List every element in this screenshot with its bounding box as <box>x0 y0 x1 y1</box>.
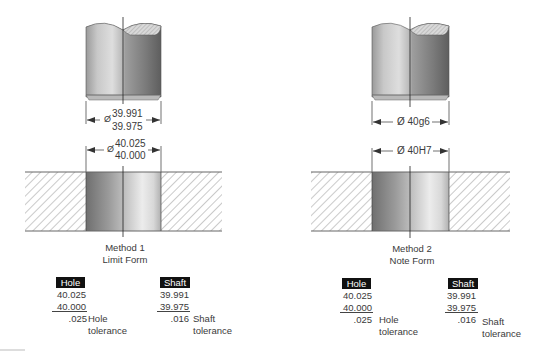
method2-subtitle: Note Form <box>382 255 442 267</box>
method1-caption: Method 1 Limit Form <box>95 242 155 266</box>
method1-hole-tolerance-label-2: tolerance <box>88 326 127 336</box>
method1-shaft-diameter-symbol: Ø <box>104 115 111 124</box>
method2-plate-section <box>311 172 510 231</box>
method2-hole-badge: Hole <box>342 278 371 289</box>
method1-hole-max: 40.025 <box>52 290 86 300</box>
method1-shaft-rule <box>157 311 190 312</box>
method2-hole-tolerance-label: Hole <box>379 315 399 325</box>
method2-hole-tolerance-label-2: tolerance <box>379 327 418 337</box>
method1-plate-section <box>25 172 222 231</box>
method1-shaft-tolerance: .016 <box>163 314 189 324</box>
method2-hole-note: Ø 40H7 <box>395 146 433 156</box>
method1-shaft-tolerance-label: Shaft <box>193 314 215 324</box>
method1-hole-badge: Hole <box>56 277 85 288</box>
method2-shaft <box>372 23 449 100</box>
method2-title: Method 2 <box>382 243 442 255</box>
method1-hole-lower-limit: 40.000 <box>115 151 146 161</box>
method1-hole-tolerance: .025 <box>60 314 87 324</box>
method2-shaft-badge: Shaft <box>448 278 478 289</box>
method1-shaft <box>86 23 161 100</box>
method2-hole-max: 40.025 <box>338 291 372 301</box>
method1-hole-upper-limit: 40.025 <box>115 139 146 149</box>
method2-shaft-tolerance: .016 <box>450 315 476 325</box>
method1-shaft-badge: Shaft <box>160 277 190 288</box>
method1-subtitle: Limit Form <box>95 254 155 266</box>
method2-shaft-tolerance-label-2: tolerance <box>482 329 521 339</box>
method1-title: Method 1 <box>95 242 155 254</box>
method1-shaft-tolerance-label-2: tolerance <box>193 326 232 336</box>
method1-shaft-max: 39.991 <box>155 290 189 300</box>
method2-caption: Method 2 Note Form <box>382 243 442 267</box>
method2-shaft-max: 39.991 <box>442 291 476 301</box>
method1-hole-tolerance-label: Hole <box>88 314 108 324</box>
method1-shaft-upper-limit: 39.991 <box>112 109 143 119</box>
method1-shaft-lower-limit: 39.975 <box>112 122 143 132</box>
method1-hole-rule <box>52 311 87 312</box>
method2-shaft-note: Ø 40g6 <box>395 117 432 127</box>
method2-shaft-rule <box>445 312 478 313</box>
method2-hole-rule <box>340 312 373 313</box>
method2-shaft-tolerance-label: Shaft <box>482 317 504 327</box>
method1-hole-diameter-symbol: Ø <box>107 145 114 154</box>
method2-hole-tolerance: .025 <box>345 315 372 325</box>
